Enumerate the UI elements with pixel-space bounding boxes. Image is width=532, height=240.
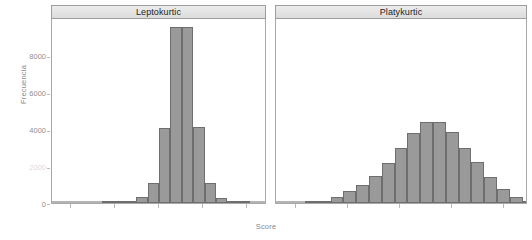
histogram-bar <box>407 133 420 203</box>
y-tick-label-6000: 6000 <box>2 90 46 98</box>
panel-title-platykurtic: Platykurtic <box>380 7 423 17</box>
histogram-bar <box>239 201 250 203</box>
plot-area-platykurtic <box>275 19 527 204</box>
x-tick-mark <box>399 204 400 208</box>
histogram-bar <box>484 177 497 203</box>
y-tick-mark-6000 <box>47 94 50 95</box>
x-axis-platykurtic <box>275 204 527 222</box>
histogram-bar <box>382 163 395 203</box>
y-tick-label-0: 0 <box>2 201 46 209</box>
histogram-bar <box>125 201 136 203</box>
x-tick-mark <box>202 204 203 208</box>
panel-platykurtic[interactable]: Platykurtic <box>275 5 527 204</box>
y-axis-ticks: 8000 6000 4000 2000 0 <box>0 0 46 240</box>
histogram-bar <box>471 162 484 203</box>
histogram-bar <box>331 197 344 203</box>
x-axis-leptokurtic <box>51 204 266 222</box>
histogram-bar <box>318 201 331 203</box>
histogram-bar <box>182 27 193 203</box>
x-tick-mark <box>114 204 115 208</box>
histogram-bar <box>305 201 318 203</box>
panel-strip-platykurtic: Platykurtic <box>275 5 527 19</box>
histogram-bar <box>102 201 113 203</box>
histogram-bar <box>395 148 408 203</box>
histogram-bar <box>510 197 523 203</box>
panel-leptokurtic[interactable]: Leptokurtic <box>51 5 266 204</box>
plot-area-leptokurtic <box>51 19 266 204</box>
y-tick-label-4000: 4000 <box>2 127 46 135</box>
histogram-bar <box>113 201 124 203</box>
bar-series-leptokurtic <box>52 19 265 203</box>
x-tick-mark <box>347 204 348 208</box>
x-tick-mark <box>246 204 247 208</box>
panel-strip-leptokurtic: Leptokurtic <box>51 5 266 19</box>
histogram-figure: Frecuencia 8000 6000 4000 2000 0 Leptoku… <box>0 0 532 240</box>
y-tick-mark-8000 <box>47 57 50 58</box>
panel-title-leptokurtic: Leptokurtic <box>136 7 181 17</box>
histogram-bar <box>356 185 369 203</box>
histogram-bar <box>433 122 446 203</box>
histogram-bar <box>227 201 238 203</box>
histogram-bar <box>216 198 227 203</box>
bar-series-platykurtic <box>276 19 526 203</box>
histogram-bar <box>193 127 204 203</box>
y-tick-mark-2000 <box>47 168 50 169</box>
histogram-bar <box>343 191 356 203</box>
y-tick-mark-4000 <box>47 131 50 132</box>
histogram-bar <box>369 176 382 203</box>
histogram-bar <box>459 148 472 203</box>
histogram-bar <box>148 183 159 203</box>
x-axis-label: Score <box>0 222 532 231</box>
x-tick-mark <box>451 204 452 208</box>
x-tick-mark <box>158 204 159 208</box>
y-tick-label-2000: 2000 <box>2 164 46 172</box>
histogram-bar <box>420 122 433 203</box>
histogram-bar <box>136 197 147 203</box>
histogram-bar <box>170 27 181 203</box>
histogram-bar <box>523 201 527 203</box>
histogram-bar <box>159 128 170 203</box>
histogram-bar <box>205 183 216 203</box>
y-tick-mark-0 <box>47 204 50 205</box>
x-tick-mark <box>503 204 504 208</box>
x-tick-mark <box>70 204 71 208</box>
x-tick-mark <box>295 204 296 208</box>
histogram-bar <box>446 132 459 203</box>
histogram-bar <box>497 189 510 203</box>
y-tick-label-8000: 8000 <box>2 53 46 61</box>
